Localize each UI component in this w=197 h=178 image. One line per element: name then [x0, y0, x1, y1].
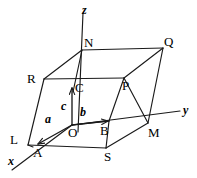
edge-P-Q: [124, 48, 163, 78]
vertex-label-Q: Q: [164, 35, 173, 48]
axis-label-z: z: [82, 4, 87, 16]
edge-L-R: [28, 79, 44, 145]
vertex-label-R: R: [27, 72, 36, 85]
vertex-label-A: A: [33, 146, 42, 159]
vertex-label-S: S: [104, 150, 111, 163]
axis-label-y: y: [183, 104, 188, 116]
vector-label-c: c: [61, 100, 66, 112]
edge-R-P: [44, 78, 124, 79]
vector-label-b: b: [80, 106, 86, 118]
vector-a: [38, 125, 72, 144]
cell-edges: [28, 48, 163, 148]
vector-label-a: a: [45, 113, 51, 125]
vertex-label-C: C: [75, 81, 84, 94]
vertex-label-B: B: [100, 124, 109, 137]
edge-Q-M: [148, 48, 163, 123]
unit-cell-figure: OABCLMNPQRSzyxabc: [0, 0, 197, 178]
vertex-label-P: P: [122, 79, 129, 92]
figure-canvas: [0, 0, 197, 178]
axis-label-x: x: [8, 155, 14, 167]
edge-M-S: [106, 123, 148, 148]
vertex-label-M: M: [148, 126, 160, 139]
vertex-label-O: O: [68, 126, 77, 139]
edge-N-Q: [82, 48, 163, 50]
vertex-label-L: L: [10, 133, 18, 146]
vertex-label-N: N: [84, 36, 93, 49]
